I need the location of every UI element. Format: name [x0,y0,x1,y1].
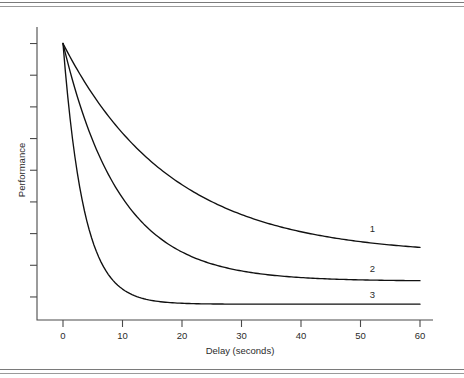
decay-curves-chart: 0102030405060 123 Delay (seconds) Perfor… [0,0,464,378]
figure-container: 0102030405060 123 Delay (seconds) Perfor… [0,0,464,378]
axes-group [30,27,433,327]
series-label-1: 1 [370,223,375,234]
curve-1 [63,44,420,248]
curve-2 [63,44,420,281]
series-labels: 123 [370,223,375,300]
curve-3 [63,44,420,305]
x-tick-label-20: 20 [177,330,188,341]
x-tick-label-10: 10 [117,330,128,341]
axis-lines [37,27,433,320]
x-axis-ticks [63,320,420,327]
x-tick-label-60: 60 [415,330,426,341]
x-tick-label-40: 40 [296,330,307,341]
series-label-3: 3 [370,289,375,300]
x-tick-label-0: 0 [60,330,65,341]
y-axis-title: Performance [16,143,27,197]
x-axis-tick-labels: 0102030405060 [60,330,425,341]
series-label-2: 2 [370,263,375,274]
x-tick-label-50: 50 [355,330,366,341]
x-tick-label-30: 30 [236,330,247,341]
curves-group [63,44,420,305]
x-axis-title: Delay (seconds) [206,345,275,356]
y-axis-ticks [30,44,37,297]
